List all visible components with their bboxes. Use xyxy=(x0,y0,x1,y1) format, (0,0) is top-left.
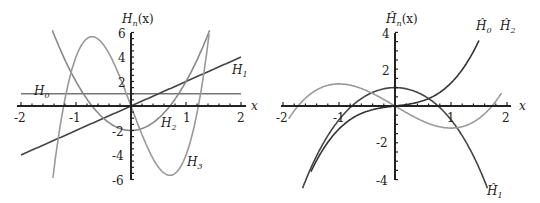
right-y-axis-label: Ĥn(x) xyxy=(385,11,418,28)
label-H2: H2 xyxy=(160,116,177,132)
svg-text:-4: -4 xyxy=(376,174,388,188)
svg-text:1: 1 xyxy=(447,111,455,125)
tick-labels-right: -2 -1 1 2 4 2 -2 -4 xyxy=(276,27,510,188)
left-y-axis-label: Hn(x) xyxy=(121,12,154,28)
svg-text:-2: -2 xyxy=(14,111,26,125)
svg-text:-2: -2 xyxy=(112,125,124,139)
svg-text:-4: -4 xyxy=(112,149,124,163)
svg-text:4: 4 xyxy=(118,51,126,65)
svg-text:-2: -2 xyxy=(276,111,288,125)
svg-text:-6: -6 xyxy=(112,174,124,188)
svg-text:6: 6 xyxy=(118,27,126,41)
svg-text:2: 2 xyxy=(502,111,510,125)
label-Hhat0: Ĥ0 xyxy=(475,18,492,35)
svg-text:4: 4 xyxy=(382,27,390,41)
label-Hhat2: Ĥ2 xyxy=(499,18,516,35)
svg-text:-2: -2 xyxy=(376,136,388,150)
left-x-axis-label: x xyxy=(251,99,258,113)
hermite-polynomials-figure: x Hn(x) -2 -1 1 2 6 4 2 -2 -4 -6 H0 H1 H… xyxy=(0,0,540,203)
svg-text:-1: -1 xyxy=(69,111,81,125)
right-x-axis-label: x xyxy=(519,99,526,113)
label-Hhat1: Ĥ1 xyxy=(486,183,503,200)
label-H0: H0 xyxy=(33,84,50,100)
svg-text:1: 1 xyxy=(183,111,191,125)
right-chart: x Ĥn(x) -2 -1 1 2 4 2 -2 -4 Ĥ0 Ĥ1 Ĥ2 xyxy=(276,11,526,200)
label-H1: H1 xyxy=(231,63,248,79)
svg-text:2: 2 xyxy=(237,111,245,125)
left-chart: x Hn(x) -2 -1 1 2 6 4 2 -2 -4 -6 H0 H1 H… xyxy=(14,12,258,188)
svg-text:-1: -1 xyxy=(333,111,345,125)
label-H3: H3 xyxy=(186,155,203,171)
svg-text:2: 2 xyxy=(382,64,390,78)
svg-text:2: 2 xyxy=(118,76,126,90)
